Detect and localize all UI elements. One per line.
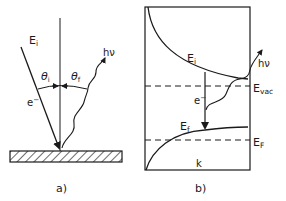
- initial-band-curve: [148, 7, 248, 79]
- final-state-label: Ef: [180, 120, 190, 134]
- panel-b-caption: b): [195, 182, 206, 195]
- initial-state-label: Ei: [187, 52, 196, 66]
- theta-f-label: θf: [71, 70, 81, 84]
- diagram-canvas: Ei e− θi θf hν a) Ei e− Ef hν Evac EF k …: [0, 0, 286, 201]
- incident-energy-label: Ei: [29, 34, 38, 48]
- photon-label: hν: [103, 47, 115, 58]
- photon-wave-line: [62, 58, 105, 148]
- theta-i-label: θi: [41, 70, 50, 84]
- fermi-level-label: EF: [253, 136, 264, 150]
- electron-label: e−: [194, 94, 206, 106]
- panel-a: Ei e− θi θf hν a): [10, 18, 122, 195]
- k-axis-label: k: [196, 158, 202, 169]
- photon-wave-line: [206, 50, 262, 110]
- panel-a-caption: a): [56, 182, 67, 195]
- photon-label: hν: [258, 58, 270, 69]
- panel-b: Ei e− Ef hν Evac EF k b): [145, 7, 273, 195]
- electron-label: e−: [27, 96, 39, 108]
- sample-substrate: [10, 151, 122, 162]
- vacuum-level-label: Evac: [253, 82, 273, 96]
- band-diagram-frame: [145, 7, 250, 170]
